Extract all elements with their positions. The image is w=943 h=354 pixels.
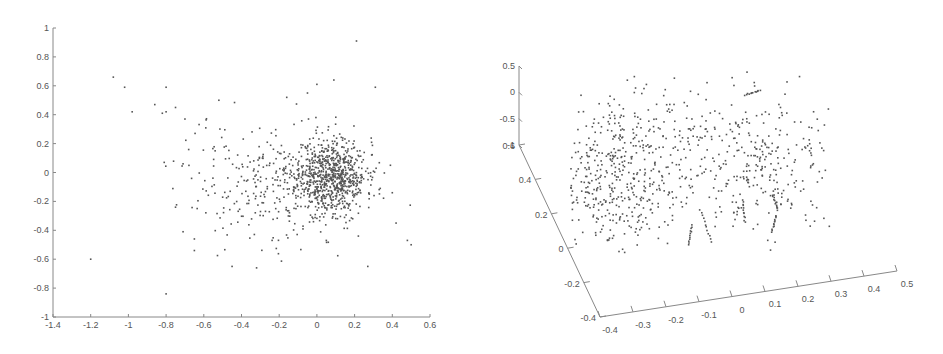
x-tick-label: -0.1 — [701, 310, 717, 320]
x-tick-label: 0.6 — [424, 320, 437, 330]
y-tick — [535, 178, 541, 179]
y-tick-label: 0.6 — [502, 141, 515, 151]
x-axis: -1.4-1.2-1-0.8-0.6-0.4-0.200.20.40.6 — [45, 314, 436, 330]
x-tick-label: -0.2 — [668, 315, 684, 325]
y-tick — [584, 282, 590, 283]
y-axis: 10.80.60.40.20-0.2-0.4-0.6-0.8-1 — [33, 23, 56, 322]
x-tick — [664, 301, 666, 307]
x-tick-label: 0 — [739, 305, 744, 315]
y-tick — [551, 213, 557, 214]
z-tick — [519, 66, 522, 69]
x-tick — [796, 280, 798, 286]
z-tick-label: 0 — [510, 87, 515, 97]
x-tick — [631, 306, 633, 312]
y-tick-label: 1 — [44, 23, 49, 33]
y-tick-label: 0 — [559, 244, 564, 254]
y-tick-label: -0.2 — [33, 196, 49, 206]
z-tick — [519, 92, 522, 95]
x-tick-label: -1 — [124, 320, 132, 330]
y-tick — [600, 316, 606, 317]
x-tick — [598, 311, 600, 317]
x-tick — [829, 275, 831, 281]
y-tick-label: -1 — [41, 312, 49, 322]
x-tick-label: 0.3 — [835, 289, 848, 299]
x-tick-label: 0.2 — [802, 294, 815, 304]
x-tick — [730, 291, 732, 297]
scatter-plot-2d: -1.4-1.2-1-0.8-0.6-0.4-0.200.20.40.6 10.… — [0, 0, 470, 354]
x-tick — [763, 285, 765, 291]
x-tick-label: 0 — [314, 320, 319, 330]
y-tick-label: 0.8 — [36, 52, 49, 62]
y-tick-label: 0.2 — [36, 139, 49, 149]
y-tick-label: -0.4 — [580, 313, 596, 323]
y-tick-label: 0.6 — [36, 81, 49, 91]
x-tick-label: 0.5 — [901, 279, 914, 289]
y-axis-3d: 0.60.40.20-0.2-0.4 — [502, 141, 606, 323]
x-tick-label: 0.2 — [348, 320, 361, 330]
data-points-3d — [570, 71, 830, 253]
y-tick-label: 0.4 — [519, 175, 532, 185]
y-tick-label: 0.4 — [36, 110, 49, 120]
x-tick-label: -0.6 — [196, 320, 212, 330]
x-tick-label: 0.4 — [868, 284, 881, 294]
y-tick-label: 0 — [44, 168, 49, 178]
x-tick-label: -0.4 — [234, 320, 250, 330]
x-tick — [697, 296, 699, 302]
y-tick-label: -0.6 — [33, 254, 49, 264]
x-tick-label: -1.2 — [83, 320, 99, 330]
x-tick-label: 0.1 — [769, 299, 782, 309]
x-tick-label: -0.2 — [271, 320, 287, 330]
x-tick — [895, 265, 897, 271]
x-tick — [862, 270, 864, 276]
x-tick-label: -0.4 — [602, 325, 618, 335]
y-tick — [519, 144, 525, 145]
y-tick-label: 0.2 — [535, 210, 548, 220]
x-tick-label: -0.8 — [158, 320, 174, 330]
z-tick — [519, 119, 522, 122]
y-tick-label: -0.8 — [33, 283, 49, 293]
y-tick-label: -0.2 — [564, 279, 580, 289]
z-axis: 0.50-0.5-1 — [499, 61, 522, 150]
data-points — [90, 40, 412, 294]
x-tick-label: 0.4 — [386, 320, 399, 330]
z-tick-label: 0.5 — [502, 61, 515, 71]
z-tick-label: -1 — [507, 140, 515, 150]
x-tick-label: -0.3 — [635, 320, 651, 330]
z-tick-label: -0.5 — [499, 114, 515, 124]
z-tick — [519, 145, 522, 148]
y-tick-label: -0.4 — [33, 225, 49, 235]
y-tick — [568, 247, 574, 248]
x-axis-3d: -0.4-0.3-0.2-0.100.10.20.30.40.5 — [598, 265, 913, 335]
